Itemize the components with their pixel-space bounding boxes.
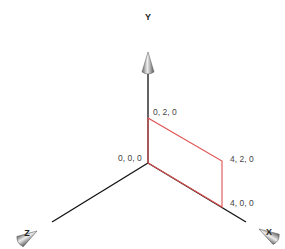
coordinate-diagram: Y X Z 0, 0, 0 0, 2, 0 4, 2, 0 4, 0, 0 — [0, 0, 285, 249]
y-arrowhead-icon — [142, 52, 154, 74]
y-axis-label: Y — [145, 12, 151, 22]
xy-plane-rectangle — [148, 118, 222, 207]
z-axis-label: Z — [24, 228, 30, 238]
label-4-2-0: 4, 2, 0 — [230, 154, 254, 164]
label-0-2-0: 0, 2, 0 — [153, 107, 177, 117]
z-axis: Z — [15, 163, 148, 248]
x-axis-label: X — [266, 227, 272, 237]
label-4-0-0: 4, 0, 0 — [230, 198, 254, 208]
label-origin: 0, 0, 0 — [118, 153, 142, 163]
